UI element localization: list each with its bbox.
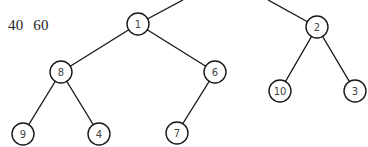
tree-node-4: 4 — [88, 123, 110, 145]
node-label: 8 — [58, 67, 64, 78]
node-label: 10 — [274, 86, 287, 97]
tree-node-3: 3 — [344, 80, 366, 102]
node-label: 4 — [96, 129, 102, 140]
tree-node-1: 1 — [127, 13, 149, 35]
node-label: 3 — [352, 86, 358, 97]
tree-edges — [23, 0, 355, 134]
tree-edge — [138, 24, 215, 72]
tree-node-2: 2 — [306, 16, 328, 38]
tree-edge — [61, 24, 138, 72]
node-label: 7 — [174, 128, 180, 139]
node-label: 2 — [314, 22, 320, 33]
tree-node-9: 9 — [12, 123, 34, 145]
node-label: 1 — [135, 19, 141, 30]
binary-tree-diagram: 1286103947 — [0, 0, 368, 147]
tree-node-8: 8 — [50, 61, 72, 83]
tree-nodes: 1286103947 — [12, 13, 366, 145]
tree-node-6: 6 — [204, 61, 226, 83]
node-label: 6 — [212, 67, 218, 78]
node-label: 9 — [20, 129, 26, 140]
tree-node-7: 7 — [166, 122, 188, 144]
tree-node-10: 10 — [269, 80, 291, 102]
